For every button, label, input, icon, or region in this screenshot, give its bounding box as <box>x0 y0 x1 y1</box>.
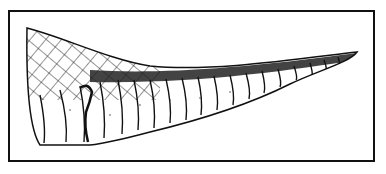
snake-tail-illustration <box>0 0 386 174</box>
tail-body <box>20 20 365 150</box>
